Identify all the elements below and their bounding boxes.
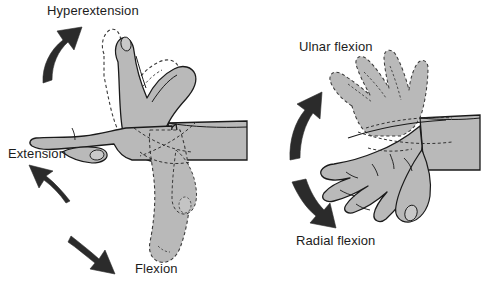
illustration-canvas xyxy=(0,0,493,292)
label-radial-flexion: Radial flexion xyxy=(296,234,375,248)
ulnar-flexion-arrow[interactable] xyxy=(290,92,322,160)
label-flexion: Flexion xyxy=(135,262,178,276)
flexion-arrow[interactable] xyxy=(68,236,115,274)
label-hyperextension: Hyperextension xyxy=(47,4,139,18)
right-panel-dorsal-view xyxy=(290,50,480,228)
radial-flexion-arrow[interactable] xyxy=(292,179,336,228)
fingernail-flexed-ghost xyxy=(179,197,191,213)
hyperextension-arrow[interactable] xyxy=(43,27,82,83)
extension-arrow[interactable] xyxy=(29,165,70,203)
label-ulnar-flexion: Ulnar flexion xyxy=(299,40,373,54)
label-extension: Extension xyxy=(8,147,66,161)
wrist-motion-figure: Hyperextension Extension Flexion Ulnar f… xyxy=(0,0,493,292)
